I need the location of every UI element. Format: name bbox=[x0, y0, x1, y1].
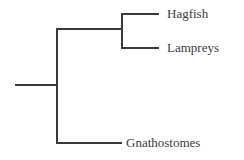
taxon-label-hagfish: Hagfish bbox=[167, 7, 208, 20]
taxon-label-lampreys: Lampreys bbox=[167, 41, 219, 54]
taxon-label-gnathostomes: Gnathostomes bbox=[126, 136, 200, 149]
cladogram-figure: Hagfish Lampreys Gnathostomes bbox=[0, 0, 244, 160]
phylogenetic-tree-graphic bbox=[0, 0, 244, 160]
tree-branches bbox=[15, 13, 159, 144]
